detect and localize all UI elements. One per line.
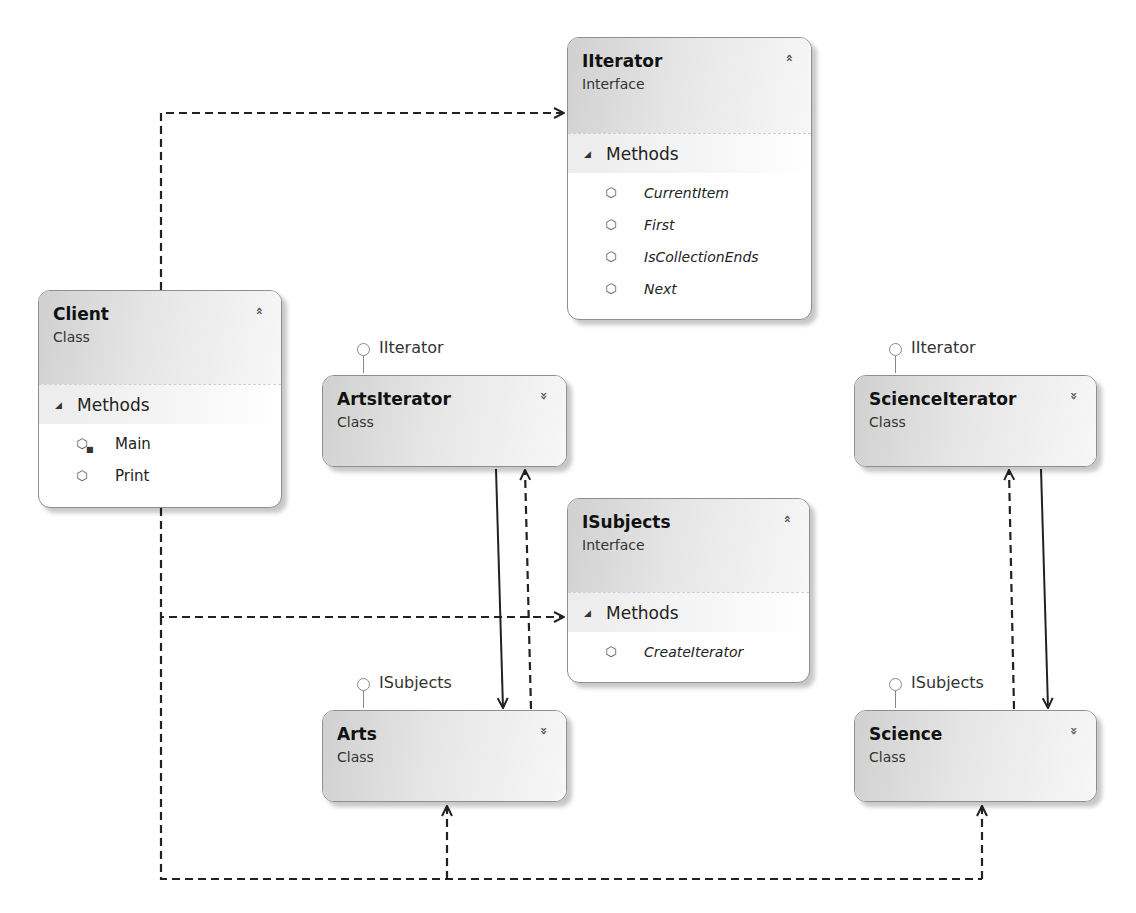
section-label: Methods	[606, 603, 679, 623]
collapse-chevron-icon[interactable]: »	[779, 511, 795, 527]
lollipop-stem	[895, 691, 896, 708]
dependency-client-to-isubjects[interactable]	[161, 508, 564, 617]
association-scienceiterator-to-science[interactable]	[1041, 469, 1048, 708]
interface-label: ISubjects	[379, 673, 452, 692]
dependency-science-to-scienceiterator[interactable]	[1009, 470, 1014, 709]
class-kind: Interface	[582, 535, 795, 555]
interface-circle-icon	[357, 343, 370, 356]
class-name: Science	[869, 723, 1082, 745]
methods-section-header[interactable]: ◢ Methods	[39, 384, 281, 424]
lollipop-stem	[363, 356, 364, 373]
class-name: ScienceIterator	[869, 388, 1082, 410]
expand-chevron-icon[interactable]: »	[536, 388, 552, 404]
interface-label: IIterator	[911, 338, 976, 357]
method-cube-icon: ⬡	[602, 209, 620, 241]
method-item[interactable]: ⬡ Next	[568, 273, 811, 305]
methods-section-header[interactable]: ◢ Methods	[568, 133, 811, 173]
association-artsiterator-to-arts[interactable]	[496, 469, 503, 708]
method-list: ⬡ CreateIterator	[568, 632, 809, 668]
method-cube-icon: ⬡	[602, 273, 620, 305]
method-cube-icon: ⬡	[602, 636, 620, 668]
class-name: IIterator	[582, 50, 797, 72]
class-box-client[interactable]: Client Class » ◢ Methods ⬡ ■ Main ⬡ Prin…	[38, 290, 282, 508]
interface-label: IIterator	[379, 338, 444, 357]
class-box-iiterator[interactable]: IIterator Interface » ◢ Methods ⬡ Curren…	[567, 37, 812, 320]
class-header: ScienceIterator Class »	[855, 376, 1096, 466]
method-cube-icon: ⬡	[73, 460, 91, 492]
class-box-arts[interactable]: Arts Class »	[322, 710, 567, 802]
method-cube-icon: ⬡	[602, 241, 620, 273]
class-kind: Class	[337, 747, 552, 767]
expand-chevron-icon[interactable]: »	[536, 723, 552, 739]
interface-label: ISubjects	[911, 673, 984, 692]
method-name: CreateIterator	[644, 644, 743, 660]
method-name: Next	[644, 281, 677, 297]
expander-triangle-icon[interactable]: ◢	[584, 593, 591, 633]
class-box-isubjects[interactable]: ISubjects Interface » ◢ Methods ⬡ Create…	[567, 498, 810, 683]
expander-triangle-icon[interactable]: ◢	[55, 385, 62, 425]
dependency-client-to-iiterator[interactable]	[161, 113, 564, 290]
class-name: Arts	[337, 723, 552, 745]
interface-circle-icon	[889, 343, 902, 356]
method-item[interactable]: ⬡ CreateIterator	[568, 636, 809, 668]
class-box-science[interactable]: Science Class »	[854, 710, 1097, 802]
dependency-arts-to-artsiterator[interactable]	[525, 470, 531, 709]
expand-chevron-icon[interactable]: »	[1066, 388, 1082, 404]
collapse-chevron-icon[interactable]: »	[781, 50, 797, 66]
method-item[interactable]: ⬡ Print	[39, 460, 281, 492]
class-kind: Class	[869, 412, 1082, 432]
method-item[interactable]: ⬡ IsCollectionEnds	[568, 241, 811, 273]
class-header: IIterator Interface »	[568, 38, 811, 133]
class-header: Science Class »	[855, 711, 1096, 801]
method-name: IsCollectionEnds	[644, 249, 759, 265]
class-kind: Class	[869, 747, 1082, 767]
collapse-chevron-icon[interactable]: »	[251, 303, 267, 319]
method-cube-icon: ⬡	[602, 177, 620, 209]
interface-circle-icon	[889, 678, 902, 691]
class-header: ArtsIterator Class »	[323, 376, 566, 466]
class-kind: Class	[337, 412, 552, 432]
method-list: ⬡ CurrentItem ⬡ First ⬡ IsCollectionEnds…	[568, 173, 811, 305]
method-name: Print	[115, 467, 150, 485]
method-name: Main	[115, 435, 151, 453]
method-item[interactable]: ⬡ CurrentItem	[568, 177, 811, 209]
section-label: Methods	[606, 144, 679, 164]
class-box-scienceiterator[interactable]: ScienceIterator Class »	[854, 375, 1097, 467]
section-label: Methods	[77, 395, 150, 415]
class-name: ArtsIterator	[337, 388, 552, 410]
expander-triangle-icon[interactable]: ◢	[584, 134, 591, 174]
class-kind: Interface	[582, 74, 797, 94]
method-list: ⬡ ■ Main ⬡ Print	[39, 424, 281, 492]
expand-chevron-icon[interactable]: »	[1066, 723, 1082, 739]
class-kind: Class	[53, 327, 267, 347]
interface-circle-icon	[357, 678, 370, 691]
class-header: Arts Class »	[323, 711, 566, 801]
method-name: First	[644, 217, 674, 233]
method-item[interactable]: ⬡ ■ Main	[39, 428, 281, 460]
class-header: Client Class »	[39, 291, 281, 384]
method-item[interactable]: ⬡ First	[568, 209, 811, 241]
class-name: Client	[53, 303, 267, 325]
lollipop-stem	[363, 691, 364, 708]
methods-section-header[interactable]: ◢ Methods	[568, 592, 809, 632]
lollipop-stem	[895, 356, 896, 373]
class-name: ISubjects	[582, 511, 795, 533]
class-header: ISubjects Interface »	[568, 499, 809, 592]
method-name: CurrentItem	[644, 185, 729, 201]
class-box-artsiterator[interactable]: ArtsIterator Class »	[322, 375, 567, 467]
